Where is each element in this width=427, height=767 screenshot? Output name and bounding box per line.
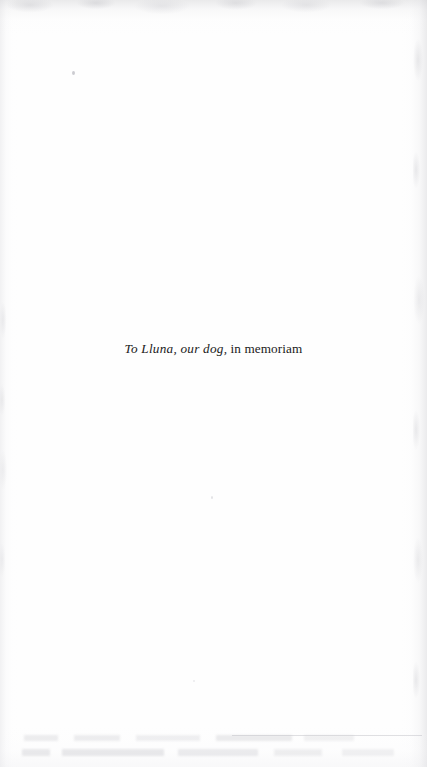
dedication-text: To Lluna, our dog, in memoriam	[0, 340, 427, 357]
scan-edge-shadow-left	[0, 0, 18, 767]
dust-speck	[193, 680, 195, 682]
scan-edge-shadow-top	[0, 0, 427, 34]
dust-speck	[211, 496, 213, 499]
page-showthrough-rule	[232, 735, 422, 736]
dedication-italic-phrase: To Lluna, our dog,	[125, 341, 228, 356]
scan-edge-shadow-bottom	[0, 727, 427, 767]
dedication-page: To Lluna, our dog, in memoriam	[0, 0, 427, 767]
page-showthrough-ghost-text	[22, 749, 394, 756]
dust-speck	[72, 71, 75, 75]
scan-edge-shadow-right	[401, 0, 427, 767]
dedication-roman-phrase: in memoriam	[227, 341, 302, 356]
page-showthrough-ghost-text	[24, 735, 354, 741]
